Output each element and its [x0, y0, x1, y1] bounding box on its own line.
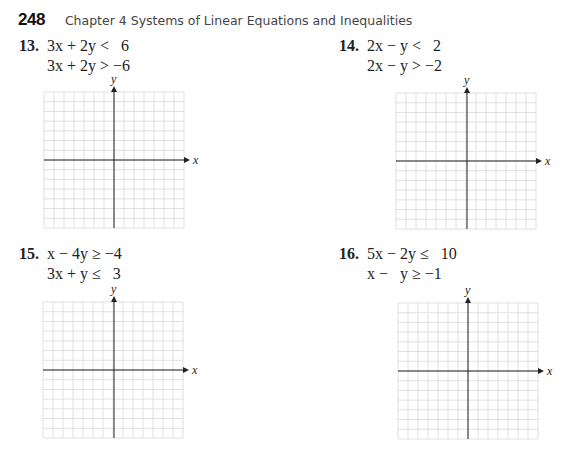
- problem-number: 13.: [19, 36, 47, 56]
- coordinate-grid-14[interactable]: xy: [396, 85, 546, 231]
- inequality-2: 3x + y ≤ 3: [47, 265, 121, 282]
- x-axis-arrow-icon: [538, 368, 544, 374]
- x-axis-label: x: [192, 153, 199, 167]
- problem-14: 14.2x − y < 2 2x − y > −2: [339, 36, 442, 76]
- x-axis-arrow-icon: [184, 157, 190, 163]
- inequality-1: 2x − y < 2: [367, 37, 441, 54]
- y-axis-label: y: [463, 73, 470, 87]
- y-axis-arrow-icon: [464, 87, 470, 93]
- grid-16: xy: [398, 295, 548, 441]
- y-axis-label: y: [464, 283, 471, 297]
- coordinate-grid-16[interactable]: xy: [398, 295, 548, 441]
- inequality-2: 3x + 2y > −6: [47, 57, 130, 74]
- problem-13: 13.3x + 2y < 6 3x + 2y > −6: [19, 36, 130, 76]
- coordinate-grid-13[interactable]: xy: [44, 84, 194, 230]
- inequality-1: 3x + 2y < 6: [47, 37, 129, 54]
- inequality-1: x − 4y ≥ −4: [47, 245, 122, 262]
- problem-15: 15.x − 4y ≥ −4 3x + y ≤ 3: [19, 244, 122, 284]
- coordinate-grid-15[interactable]: xy: [43, 294, 193, 440]
- problem-number: 16.: [339, 244, 367, 264]
- y-axis-arrow-icon: [111, 86, 117, 92]
- y-axis-label: y: [110, 282, 117, 296]
- y-axis-label: y: [110, 72, 117, 86]
- problem-number: 14.: [339, 36, 367, 56]
- grid-14: xy: [396, 85, 546, 231]
- x-axis-arrow-icon: [536, 158, 542, 164]
- y-axis-arrow-icon: [111, 296, 117, 302]
- inequality-2: x − y ≥ −1: [367, 265, 442, 282]
- inequality-2: 2x − y > −2: [367, 57, 442, 74]
- grid-15: xy: [43, 294, 193, 440]
- problem-16: 16.5x − 2y ≤ 10 x − y ≥ −1: [339, 244, 457, 284]
- chapter-title: Chapter 4 Systems of Linear Equations an…: [65, 13, 413, 28]
- y-axis-arrow-icon: [465, 297, 471, 303]
- x-axis-label: x: [544, 154, 551, 168]
- problem-number: 15.: [19, 244, 47, 264]
- x-axis-label: x: [191, 363, 198, 377]
- grid-13: xy: [44, 84, 194, 230]
- inequality-1: 5x − 2y ≤ 10: [367, 245, 457, 262]
- x-axis-arrow-icon: [183, 367, 189, 373]
- page-header: 248 Chapter 4 Systems of Linear Equation…: [18, 10, 412, 30]
- page-number: 248: [18, 10, 45, 30]
- x-axis-label: x: [546, 364, 553, 378]
